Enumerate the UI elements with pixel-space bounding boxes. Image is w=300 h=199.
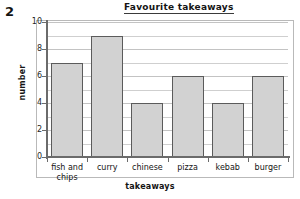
- x-axis-tick: [208, 158, 209, 162]
- y-axis-tick-label: 8: [28, 45, 42, 53]
- y-axis-tick: [42, 103, 46, 104]
- gridline: [47, 22, 288, 23]
- bar: [51, 63, 83, 158]
- y-axis-tick: [42, 157, 46, 158]
- gridline: [47, 36, 288, 37]
- question-number: 2: [5, 4, 14, 19]
- bar: [131, 103, 163, 157]
- x-axis-category-label: burger: [248, 163, 288, 173]
- worksheet-page: 2 Favourite takeaways 0246810 number fis…: [0, 0, 300, 199]
- y-axis-title: number: [18, 55, 27, 111]
- y-axis-line: [46, 20, 48, 159]
- bar: [212, 103, 244, 157]
- x-axis-tick: [248, 158, 249, 162]
- bar: [172, 76, 204, 157]
- x-axis-tick: [288, 158, 289, 162]
- bar: [91, 36, 123, 158]
- bar: [252, 76, 284, 157]
- y-axis-tick: [42, 22, 46, 23]
- y-axis-tick: [42, 49, 46, 50]
- chart-title: Favourite takeaways: [124, 2, 234, 14]
- x-axis-tick: [168, 158, 169, 162]
- y-axis-tick-label: 2: [28, 126, 42, 134]
- y-axis-tick-label: 6: [28, 72, 42, 80]
- y-axis-tick: [42, 130, 46, 131]
- x-axis-tick: [127, 158, 128, 162]
- plot-area: [47, 22, 288, 157]
- gridline: [47, 49, 288, 50]
- y-axis-tick-labels: 0246810: [24, 0, 42, 199]
- x-axis-category-label: fish and chips: [47, 163, 87, 182]
- gridline: [47, 63, 288, 64]
- x-axis-category-label: chinese: [127, 163, 167, 173]
- y-axis-tick-label: 0: [28, 153, 42, 161]
- x-axis-tick: [87, 158, 88, 162]
- x-axis-category-label: kebab: [208, 163, 248, 173]
- y-axis-tick-label: 10: [28, 18, 42, 26]
- x-axis-category-label: curry: [87, 163, 127, 173]
- x-axis-category-label: pizza: [168, 163, 208, 173]
- x-axis-title: takeaways: [0, 182, 300, 191]
- x-axis-tick: [47, 158, 48, 162]
- y-axis-tick-label: 4: [28, 99, 42, 107]
- y-axis-tick: [42, 76, 46, 77]
